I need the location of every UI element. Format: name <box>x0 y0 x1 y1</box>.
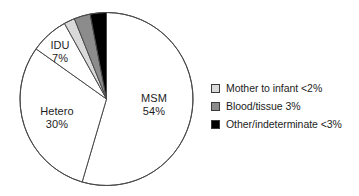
legend-item-label: Other/indeterminate <3% <box>226 118 342 130</box>
legend-swatch-icon <box>211 102 220 111</box>
pie-slice-name-hetero: Hetero <box>40 105 74 117</box>
legend-swatch-icon <box>211 120 220 129</box>
legend-item: Mother to infant <2% <box>211 80 357 96</box>
legend-swatch-icon <box>211 84 220 93</box>
pie-slice-percent-msm: 54% <box>126 105 182 118</box>
pie-slice-name-msm: MSM <box>141 92 167 104</box>
pie-slice-percent-hetero: 30% <box>26 118 88 131</box>
legend-item-label: Blood/tissue 3% <box>226 100 301 112</box>
pie-slice-label-hetero: Hetero 30% <box>26 105 88 130</box>
pie-slice-percent-idu: 7% <box>38 52 82 65</box>
legend-item-label: Mother to infant <2% <box>226 82 322 94</box>
chart-legend: Mother to infant <2%Blood/tissue 3%Other… <box>211 80 357 134</box>
pie-slice-label-idu: IDU 7% <box>38 39 82 64</box>
legend-item: Blood/tissue 3% <box>211 98 357 114</box>
pie-slice-name-idu: IDU <box>50 39 69 51</box>
pie-slice-label-msm: MSM 54% <box>126 92 182 117</box>
pie-chart-figure: MSM 54% Hetero 30% IDU 7% Mother to infa… <box>0 0 359 196</box>
legend-item: Other/indeterminate <3% <box>211 116 357 132</box>
